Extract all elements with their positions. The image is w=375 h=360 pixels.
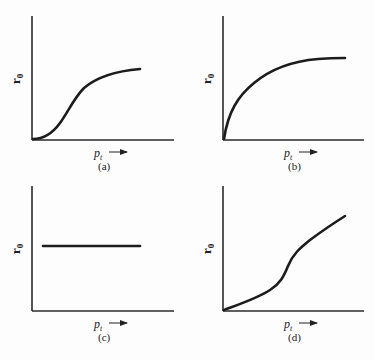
- panel-label: (c): [98, 331, 111, 344]
- hyperbolic-curve: [224, 58, 345, 139]
- y-axis-label: r0: [199, 73, 216, 84]
- inflection-curve: [224, 216, 345, 310]
- panel-label: (a): [98, 160, 111, 173]
- y-axis-label: r0: [199, 243, 216, 254]
- panel-c: r0 pt (c): [8, 186, 174, 344]
- panel-b: r0 pt (b): [199, 16, 364, 173]
- panel-label: (d): [288, 331, 301, 344]
- y-axis-label: r0: [8, 73, 25, 84]
- panel-a: r0 pt (a): [8, 16, 174, 173]
- y-axis-label: r0: [8, 243, 25, 254]
- panel-d: r0 pt (d): [199, 186, 364, 344]
- figure-canvas: r0 pt (a) r0 pt (b) r0 pt (c) r0 pt (d): [0, 0, 375, 360]
- panel-label: (b): [288, 160, 301, 173]
- sigmoid-curve: [33, 69, 140, 139]
